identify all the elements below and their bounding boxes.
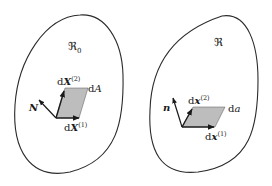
current-area-label: da	[228, 103, 240, 114]
current-normal-label: n	[163, 102, 170, 113]
current-area-element	[182, 107, 225, 127]
reference-vector-1-label: dX(1)	[64, 121, 88, 133]
current-normal-arrow	[173, 98, 182, 127]
current-vector-1-label: dx(1)	[205, 130, 227, 142]
reference-normal-arrow	[39, 100, 56, 118]
reference-configuration: ℜ0 N dX(2) dA dX(1)	[15, 15, 123, 173]
current-configuration: ℜ n dx(2) da dx(1)	[150, 16, 258, 173]
reference-region-label: ℜ0	[68, 40, 81, 55]
continuum-deformation-diagram: ℜ0 N dX(2) dA dX(1) ℜ n dx(2) da dx(1	[0, 0, 272, 186]
reference-normal-label: N	[28, 102, 39, 113]
reference-vector-2-label: dX(2)	[57, 75, 81, 87]
current-vector-2-label: dx(2)	[188, 94, 210, 106]
current-region-label: ℜ	[214, 36, 223, 49]
reference-area-label: dA	[88, 83, 102, 94]
